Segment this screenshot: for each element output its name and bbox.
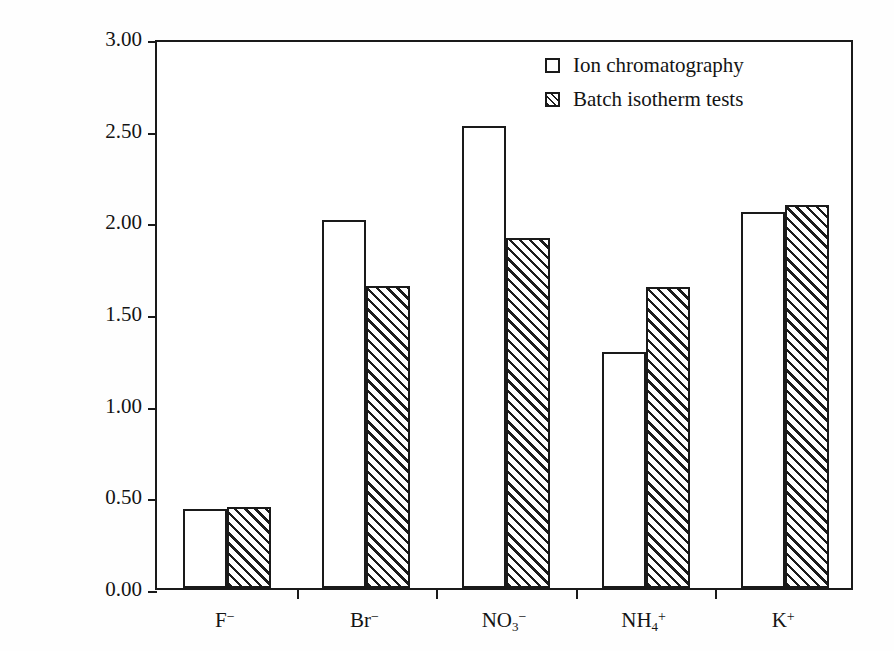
category-superscript: + [787,609,795,624]
category-base: NH [621,608,651,632]
category-superscript: − [518,609,526,624]
y-axis-tick-label: 3.00 [76,29,142,50]
category-base: NO [482,608,512,632]
legend-label-ion-chromatography: Ion chromatography [573,53,744,78]
category-superscript: − [227,609,235,624]
y-axis-tick-mark [148,499,157,501]
figure-canvas: Separation factors (αi/Cl− or αi/Na+) 0.… [0,0,894,651]
y-axis-tick-labels: 0.000.501.001.502.002.503.00 [62,0,142,651]
legend-swatch-hatched-icon [545,92,560,107]
x-axis-category-label: NO3− [444,608,564,635]
y-axis-tick-mark [148,408,157,410]
legend: Ion chromatography Batch isotherm tests [545,48,845,116]
category-superscript: − [371,609,379,624]
bar-batch-isotherm-tests[interactable] [506,238,550,588]
category-superscript: + [658,609,666,624]
bar-ion-chromatography[interactable] [602,352,646,589]
y-axis-tick-label: 2.00 [76,212,142,233]
y-axis-tick-label: 1.50 [76,304,142,325]
y-axis-tick-mark [148,316,157,318]
bar-batch-isotherm-tests[interactable] [646,287,690,588]
y-axis-tick-label: 0.50 [76,487,142,508]
bar-ion-chromatography[interactable] [741,212,785,588]
y-axis-tick-mark [148,591,157,593]
category-base: F [215,608,227,632]
y-axis-tick-mark [148,224,157,226]
category-base: Br [350,608,371,632]
y-axis-tick-label: 2.50 [76,121,142,142]
x-axis-category-label: F− [165,608,285,633]
x-axis-tick-mark [436,588,438,599]
x-axis-tick-mark [715,588,717,599]
y-axis-tick-label: 1.00 [76,396,142,417]
x-axis-category-label: NH4+ [584,608,704,635]
bar-batch-isotherm-tests[interactable] [785,205,829,588]
category-base: K [772,608,787,632]
x-axis-category-label: Br− [304,608,424,633]
bar-ion-chromatography[interactable] [462,126,506,588]
bar-batch-isotherm-tests[interactable] [366,286,410,589]
legend-label-batch-isotherm-tests: Batch isotherm tests [573,87,743,112]
legend-item-batch-isotherm-tests[interactable]: Batch isotherm tests [545,82,845,116]
legend-item-ion-chromatography[interactable]: Ion chromatography [545,48,845,82]
bar-batch-isotherm-tests[interactable] [227,507,271,588]
y-axis-tick-label: 0.00 [76,579,142,600]
plot-area [155,40,853,590]
x-axis-tick-mark [576,588,578,599]
bar-ion-chromatography[interactable] [183,509,227,588]
y-axis-tick-mark [148,41,157,43]
x-axis-tick-mark [297,588,299,599]
bar-ion-chromatography[interactable] [322,220,366,589]
y-axis-tick-mark [148,133,157,135]
legend-swatch-open-icon [545,58,560,73]
x-axis-category-label: K+ [723,608,843,633]
